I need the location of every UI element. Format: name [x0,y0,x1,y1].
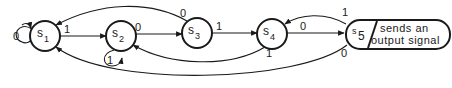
svg-text:s: s [37,26,43,40]
state-s1: s 1 [30,21,60,51]
svg-text:s: s [263,24,269,38]
state-s3: s 3 [182,18,212,48]
label-s1-s2: 1 [64,23,70,35]
svg-text:5: 5 [358,29,365,43]
label-s5-s4: 1 [342,6,348,18]
state-s2: s 2 [106,21,136,51]
svg-text:s: s [352,26,357,36]
label-s3-s4: 1 [216,20,222,32]
svg-text:4: 4 [270,32,275,42]
label-s1-s1: 0 [13,30,19,42]
state-s5-note-line1: sends an [380,22,429,34]
svg-text:3: 3 [195,31,200,41]
svg-text:2: 2 [119,34,124,44]
label-s2-s2: 1 [107,54,113,66]
label-s5-s1: 0 [341,47,347,59]
svg-text:s: s [188,23,194,37]
state-s5: s 5 sends an output signal [346,20,450,49]
label-s4-s5: 0 [300,20,306,32]
edge-s5-s4 [285,16,346,24]
state-diagram: 0 1 1 0 0 1 1 0 1 0 s 1 s 2 s 3 s 4 [0,0,452,88]
state-s4: s 4 [257,19,287,49]
svg-text:1: 1 [44,34,49,44]
edge-s5-s1 [56,45,347,75]
state-s5-note-line2: output signal [371,34,440,46]
label-s3-s1: 0 [180,7,186,19]
svg-text:s: s [112,26,118,40]
